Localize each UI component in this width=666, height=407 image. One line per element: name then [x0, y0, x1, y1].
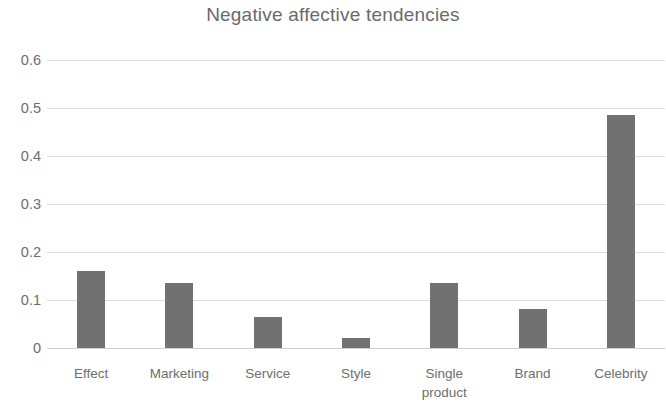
bar: [519, 309, 547, 348]
gridline: [47, 108, 665, 109]
x-axis-tick-label: Single product: [400, 364, 488, 402]
bar-chart: Negative affective tendencies 00.10.20.3…: [0, 0, 666, 407]
gridline: [47, 300, 665, 301]
y-axis-tick-label: 0.6: [0, 53, 41, 68]
bar: [165, 283, 193, 348]
bar: [342, 338, 370, 348]
y-axis: 00.10.20.30.40.50.6: [0, 60, 41, 348]
bar: [77, 271, 105, 348]
y-axis-tick-label: 0.1: [0, 293, 41, 308]
y-axis-tick-label: 0.3: [0, 197, 41, 212]
x-axis-tick-label: Effect: [47, 364, 135, 383]
y-axis-tick-label: 0.5: [0, 101, 41, 116]
x-axis-tick-label: Marketing: [135, 364, 223, 383]
x-axis-tick-label: Brand: [488, 364, 576, 383]
y-axis-tick-label: 0: [0, 341, 41, 356]
plot-area: [47, 60, 665, 348]
x-axis-tick-label: Style: [312, 364, 400, 383]
gridline: [47, 204, 665, 205]
y-axis-tick-label: 0.4: [0, 149, 41, 164]
axis-baseline: [47, 348, 665, 349]
bar: [254, 317, 282, 348]
gridline: [47, 156, 665, 157]
bar: [430, 283, 458, 348]
bar: [607, 115, 635, 348]
x-axis-tick-label: Celebrity: [577, 364, 665, 383]
x-axis-tick-label: Service: [224, 364, 312, 383]
y-axis-tick-label: 0.2: [0, 245, 41, 260]
gridline: [47, 60, 665, 61]
x-axis: EffectMarketingServiceStyleSingle produc…: [47, 354, 665, 406]
gridline: [47, 252, 665, 253]
chart-title: Negative affective tendencies: [0, 4, 666, 26]
